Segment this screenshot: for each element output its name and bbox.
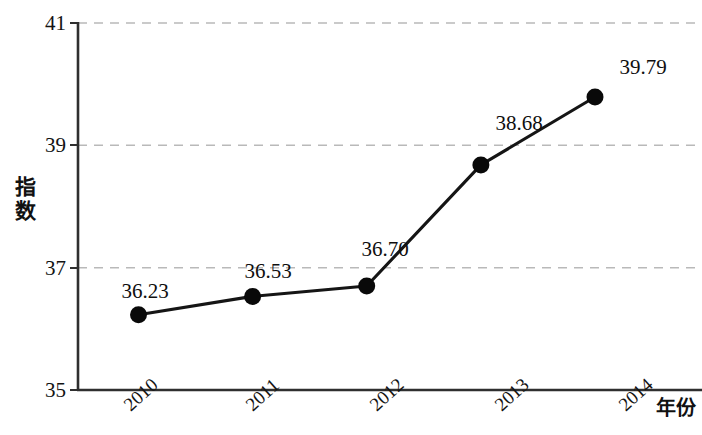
y-tick-label-35: 35	[22, 380, 66, 401]
y-axis-title-char-1: 指	[8, 176, 42, 200]
y-tick-label-37: 37	[22, 258, 66, 279]
data-point-2011	[244, 288, 261, 305]
y-axis-title: 指 数	[8, 176, 42, 223]
chart-plot-area	[0, 0, 702, 435]
y-tick-label-41: 41	[22, 13, 66, 34]
gridlines	[78, 23, 700, 268]
axis-spines	[77, 22, 702, 391]
data-label-2013: 38.68	[495, 113, 542, 134]
data-label-2014: 39.79	[619, 57, 666, 78]
data-point-2013	[472, 156, 489, 173]
data-label-2012: 36.70	[361, 239, 408, 260]
data-label-2010: 36.23	[121, 281, 168, 302]
y-tick-label-39: 39	[22, 135, 66, 156]
data-point-2010	[130, 306, 147, 323]
data-label-2011: 36.53	[244, 261, 291, 282]
line-chart-figure: 41 39 37 35 指 数 2010 2011 2012 2013 2014…	[0, 0, 702, 435]
data-point-2014	[587, 89, 604, 106]
y-axis-title-char-2: 数	[8, 200, 42, 224]
data-point-2012	[358, 278, 375, 295]
x-axis-title: 年份	[656, 398, 696, 418]
